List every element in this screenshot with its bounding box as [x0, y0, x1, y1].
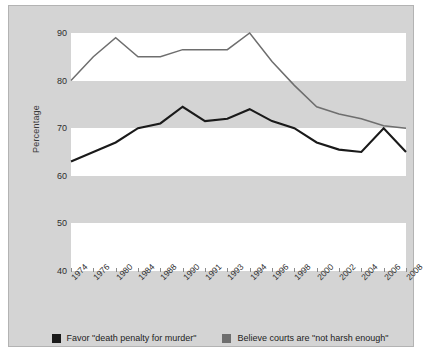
legend-entry[interactable]: Believe courts are "not harsh enough"	[222, 333, 388, 343]
legend-label: Believe courts are "not harsh enough"	[237, 333, 388, 343]
x-axis-tick-labels: 1974197619801984198819901991199319941996…	[71, 272, 406, 318]
y-tick-label: 60	[41, 171, 67, 181]
y-tick-label: 70	[41, 123, 67, 133]
series-line	[71, 107, 406, 162]
legend-swatch-icon	[52, 334, 61, 343]
chart-panel: Percentage 908070605040 1974197619801984…	[8, 5, 414, 347]
legend-label: Favor "death penalty for murder"	[67, 333, 197, 343]
legend-entry[interactable]: Favor "death penalty for murder"	[52, 333, 197, 343]
plot-area	[71, 33, 406, 271]
y-tick-label: 40	[41, 266, 67, 276]
y-tick-label: 80	[41, 76, 67, 86]
y-axis-tick-labels: 908070605040	[37, 6, 67, 348]
plot-lines	[71, 33, 406, 271]
x-tick-label: 2008	[404, 262, 424, 282]
y-tick-label: 90	[41, 28, 67, 38]
chart-figure: Percentage 908070605040 1974197619801984…	[0, 0, 430, 359]
y-tick-label: 50	[41, 218, 67, 228]
legend-swatch-icon	[222, 334, 231, 343]
chart-legend: Favor "death penalty for murder"Believe …	[17, 327, 423, 349]
